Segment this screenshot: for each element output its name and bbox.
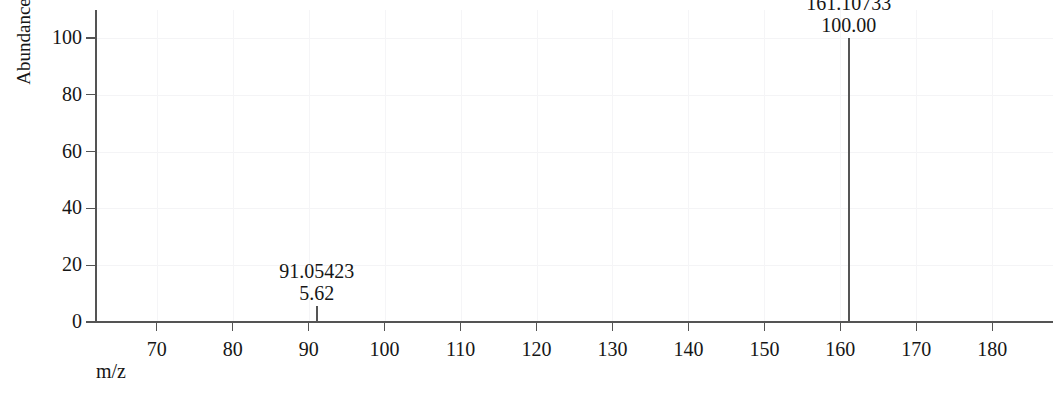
gridline-vertical (764, 10, 765, 322)
peak-mz-label: 91.05423 (197, 260, 437, 282)
x-axis-tick (460, 322, 461, 331)
x-axis-tick (156, 322, 157, 331)
x-axis-tick (384, 322, 385, 331)
peak-annotation: 161.10733100.00 (729, 0, 969, 36)
peak-intensity-label: 100.00 (729, 14, 969, 36)
x-axis-tick (688, 322, 689, 331)
x-axis-tick-label: 140 (653, 337, 723, 361)
gridline-vertical (461, 10, 462, 322)
gridline-vertical (916, 10, 917, 322)
y-axis-tick-label-wrap: 80 (26, 84, 82, 104)
x-axis-tick (612, 322, 613, 331)
y-axis-tick (86, 37, 96, 38)
x-axis-tick (308, 322, 309, 331)
gridline-vertical (157, 10, 158, 322)
y-axis-tick-label-wrap: 40 (26, 197, 82, 217)
y-axis-tick (86, 208, 96, 209)
gridline-vertical (840, 10, 841, 322)
x-axis-line (95, 321, 1053, 323)
x-axis-title: m/z (96, 360, 126, 382)
y-axis-tick-label: 0 (36, 311, 82, 331)
x-axis-tick-label: 160 (805, 337, 875, 361)
x-axis-tick-label: 90 (274, 337, 344, 361)
gridline-horizontal (96, 208, 1053, 209)
x-axis-tick-label: 110 (426, 337, 496, 361)
x-axis-tick-label: 70 (122, 337, 192, 361)
peak-annotation: 91.054235.62 (197, 260, 437, 304)
y-axis-tick-label: 40 (36, 197, 82, 217)
gridline-vertical (612, 10, 613, 322)
x-axis-tick (536, 322, 537, 331)
x-axis-tick-label: 80 (198, 337, 268, 361)
peak-intensity-label: 5.62 (197, 282, 437, 304)
y-axis-title: Abundance (14, 0, 33, 102)
peak-stem (848, 38, 850, 322)
x-axis-tick (916, 322, 917, 331)
y-axis-tick-label: 20 (36, 254, 82, 274)
y-axis-tick-label: 60 (36, 141, 82, 161)
y-axis-tick-label-wrap: 60 (26, 141, 82, 161)
y-axis-tick-label: 80 (36, 84, 82, 104)
gridline-horizontal (96, 38, 1053, 39)
gridline-horizontal (96, 152, 1053, 153)
x-axis-tick (992, 322, 993, 331)
y-axis-tick-label: 100 (36, 27, 82, 47)
mass-spectrum-figure: 020406080100 708090100110120130140150160… (0, 0, 1053, 394)
x-axis-tick (840, 322, 841, 331)
y-axis-tick (86, 265, 96, 266)
gridline-vertical (992, 10, 993, 322)
y-axis-tick-label-wrap: 100 (26, 27, 82, 47)
x-axis-tick (764, 322, 765, 331)
y-axis-tick (86, 94, 96, 95)
x-axis-tick-label: 120 (502, 337, 572, 361)
gridline-horizontal (96, 95, 1053, 96)
gridline-vertical (688, 10, 689, 322)
peak-stem (316, 306, 318, 322)
y-axis-line (95, 10, 97, 323)
x-axis-tick-label: 150 (729, 337, 799, 361)
gridline-vertical (537, 10, 538, 322)
x-axis-tick-label: 180 (957, 337, 1027, 361)
x-axis-tick-label: 130 (577, 337, 647, 361)
x-axis-tick-label: 170 (881, 337, 951, 361)
x-axis-tick (232, 322, 233, 331)
x-axis-tick-label: 100 (350, 337, 420, 361)
y-axis-tick (86, 321, 96, 322)
y-axis-tick-label-wrap: 0 (26, 311, 82, 331)
y-axis-tick-label-wrap: 20 (26, 254, 82, 274)
peak-mz-label: 161.10733 (729, 0, 969, 14)
y-axis-tick (86, 151, 96, 152)
